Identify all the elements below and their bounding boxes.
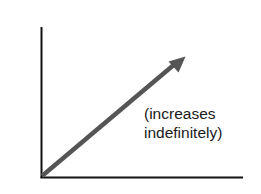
growth-diagram bbox=[0, 0, 261, 194]
annotation-line-2: indefinitely) bbox=[144, 123, 222, 142]
annotation-line-1: (increases bbox=[144, 104, 222, 123]
annotation-label: (increases indefinitely) bbox=[144, 104, 222, 142]
